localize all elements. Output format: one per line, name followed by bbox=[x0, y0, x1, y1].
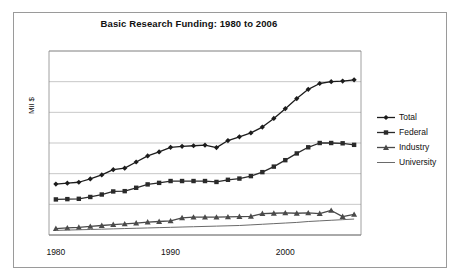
data-point bbox=[306, 145, 310, 149]
data-point bbox=[53, 181, 58, 186]
data-point bbox=[214, 180, 218, 184]
data-point bbox=[65, 197, 69, 201]
x-tick-label: 1990 bbox=[161, 247, 180, 257]
data-point bbox=[318, 141, 322, 145]
data-point bbox=[283, 158, 287, 162]
y-axis-label: Mil $ bbox=[27, 76, 36, 136]
data-point bbox=[191, 143, 196, 148]
data-point bbox=[260, 170, 264, 174]
data-point bbox=[65, 181, 70, 186]
data-point bbox=[157, 181, 161, 185]
data-point bbox=[88, 195, 92, 199]
data-point bbox=[88, 176, 93, 181]
data-point bbox=[328, 207, 334, 212]
legend-marker-diamond-icon bbox=[376, 110, 396, 123]
data-point bbox=[191, 179, 195, 183]
data-point bbox=[180, 179, 184, 183]
series-line-total bbox=[56, 80, 354, 184]
data-point bbox=[54, 197, 58, 201]
legend-label: University bbox=[399, 157, 436, 167]
legend-marker-line-icon bbox=[376, 155, 396, 168]
data-point bbox=[134, 159, 139, 164]
data-point bbox=[111, 167, 116, 172]
legend-label: Industry bbox=[399, 142, 429, 152]
legend-item-federal[interactable]: Federal bbox=[376, 124, 450, 139]
data-point bbox=[272, 164, 276, 168]
data-point bbox=[340, 78, 345, 83]
series-layer bbox=[53, 77, 357, 231]
data-point bbox=[351, 211, 357, 216]
data-point bbox=[249, 174, 253, 178]
data-point bbox=[179, 144, 184, 149]
legend-item-industry[interactable]: Industry bbox=[376, 139, 450, 154]
data-point bbox=[168, 145, 173, 150]
x-tick-label: 2000 bbox=[276, 247, 295, 257]
data-point bbox=[168, 179, 172, 183]
chart-canvas bbox=[36, 39, 362, 245]
x-tick-label: 1980 bbox=[46, 247, 65, 257]
plot-area: 198019902000 bbox=[36, 39, 362, 245]
series-line-federal bbox=[56, 143, 354, 199]
data-point bbox=[100, 192, 104, 196]
data-point bbox=[295, 151, 299, 155]
legend-item-university[interactable]: University bbox=[376, 154, 450, 169]
data-point bbox=[340, 141, 344, 145]
data-point bbox=[329, 79, 334, 84]
data-point bbox=[77, 197, 81, 201]
data-point bbox=[145, 182, 149, 186]
data-point bbox=[226, 178, 230, 182]
legend-item-total[interactable]: Total bbox=[376, 109, 450, 124]
chart-figure: Basic Research Funding: 1980 to 2006 Mil… bbox=[13, 12, 447, 268]
data-point bbox=[203, 179, 207, 183]
data-point bbox=[248, 130, 253, 135]
legend-label: Total bbox=[399, 112, 417, 122]
chart-legend: TotalFederalIndustryUniversity bbox=[376, 109, 450, 169]
data-point bbox=[123, 189, 127, 193]
data-point bbox=[352, 143, 356, 147]
data-point bbox=[99, 172, 104, 177]
data-point bbox=[329, 141, 333, 145]
data-point bbox=[237, 134, 242, 139]
data-point bbox=[157, 149, 162, 154]
data-point bbox=[76, 180, 81, 185]
legend-marker-triangle-icon bbox=[376, 140, 396, 153]
legend-label: Federal bbox=[399, 127, 428, 137]
data-point bbox=[122, 166, 127, 171]
data-point bbox=[145, 153, 150, 158]
chart-title: Basic Research Funding: 1980 to 2006 bbox=[14, 18, 364, 29]
data-point bbox=[237, 176, 241, 180]
data-point bbox=[134, 186, 138, 190]
legend-marker-square-icon bbox=[376, 125, 396, 138]
data-point bbox=[111, 189, 115, 193]
